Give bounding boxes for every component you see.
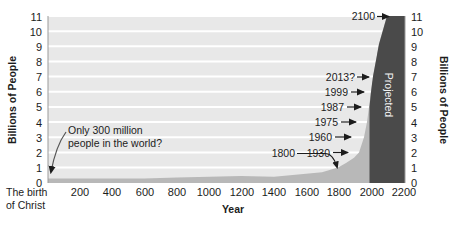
x-tick-label: 1600 — [295, 186, 319, 198]
x-axis-ticks: 200 400 600 800 1000 1200 1400 1600 1800… — [71, 186, 416, 198]
year-label-2013: 2013? — [326, 71, 355, 83]
x-tick-label: 200 — [71, 186, 89, 198]
y-tick-label-right: 2 — [411, 147, 417, 159]
x-tick-label: 400 — [103, 186, 121, 198]
callout-line-2: people in the world? — [68, 137, 162, 149]
year-label-1960: 1960 — [309, 131, 333, 143]
x-tick-label: 1800 — [327, 186, 351, 198]
x-tick-label: 1200 — [230, 186, 254, 198]
y-tick-label: 6 — [36, 86, 42, 98]
population-growth-chart: Projected 11 10 9 8 7 6 5 4 3 2 1 0 11 1… — [0, 0, 458, 228]
y-axis-right-ticks: 11 10 9 8 7 6 5 4 3 2 1 0 — [411, 11, 423, 190]
y-tick-label-right: 6 — [411, 86, 417, 98]
y-tick-label: 7 — [36, 71, 42, 83]
y-tick-label: 1 — [36, 162, 42, 174]
callout-line-1: Only 300 million — [68, 124, 143, 136]
x-tick-label: 600 — [136, 186, 154, 198]
y-tick-label: 3 — [36, 132, 42, 144]
year-label-1800: 1800 — [272, 147, 296, 159]
year-label-2100: 2100 — [352, 10, 376, 22]
x-tick-label: 1000 — [197, 186, 221, 198]
y-tick-label-right: 7 — [411, 71, 417, 83]
projected-label: Projected — [383, 73, 395, 118]
y-tick-label-right: 10 — [411, 26, 423, 38]
y-tick-label-right: 3 — [411, 132, 417, 144]
y-tick-label: 10 — [30, 26, 42, 38]
chart-canvas: Projected 11 10 9 8 7 6 5 4 3 2 1 0 11 1… — [0, 0, 458, 228]
x-tick-label: 800 — [168, 186, 186, 198]
y-tick-label: 9 — [36, 41, 42, 53]
y-tick-label: 11 — [31, 11, 42, 23]
x-tick-label: 1400 — [262, 186, 286, 198]
plot-background — [48, 16, 405, 183]
y-tick-label: 8 — [36, 56, 42, 68]
y-tick-label-right: 11 — [411, 11, 422, 23]
y-axis-title-left: Billions of People — [6, 56, 18, 144]
year-label-1987: 1987 — [321, 101, 345, 113]
x-axis-title: Year — [222, 203, 244, 215]
x-tick-label: 2000 — [360, 186, 384, 198]
y-tick-label-right: 8 — [411, 56, 417, 68]
y-tick-label-right: 5 — [411, 101, 417, 113]
y-tick-label-right: 1 — [411, 162, 417, 174]
y-axis-title-right: Billions of People — [438, 56, 450, 144]
y-tick-label: 5 — [36, 101, 42, 113]
y-axis-left-ticks: 11 10 9 8 7 6 5 4 3 2 1 0 — [30, 11, 42, 190]
year-label-1975: 1975 — [315, 116, 339, 128]
x-tick-label: 2200 — [392, 186, 416, 198]
y-tick-label-right: 4 — [411, 117, 417, 129]
y-tick-label: 2 — [36, 147, 42, 159]
y-tick-label: 4 — [36, 117, 42, 129]
y-tick-label-right: 9 — [411, 41, 417, 53]
year-label-1999: 1999 — [325, 86, 349, 98]
x-origin-label-line1: The birth — [6, 186, 48, 198]
x-origin-label-line2: of Christ — [6, 199, 45, 211]
